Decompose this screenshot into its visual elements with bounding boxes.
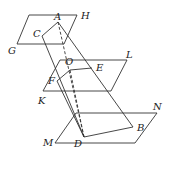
point-labels: AHCGLOEFKNBMD — [8, 10, 163, 149]
segment-AB — [58, 22, 133, 127]
label-c: C — [33, 28, 41, 39]
label-e: E — [95, 62, 104, 73]
segments — [42, 22, 133, 137]
segment-OE — [70, 68, 92, 70]
segment-FO — [57, 70, 70, 81]
segment-CD — [42, 36, 84, 137]
label-f: F — [47, 75, 56, 86]
diagram-canvas: AHCGLOEFKNBMD — [0, 0, 172, 169]
label-m: M — [42, 137, 54, 148]
label-b: B — [136, 122, 144, 133]
label-o: O — [65, 56, 73, 67]
plane-kl — [43, 60, 127, 91]
label-a: A — [53, 11, 61, 22]
label-d: D — [73, 138, 82, 149]
plane-gh — [17, 15, 77, 44]
label-n: N — [152, 101, 163, 112]
label-l: L — [125, 49, 133, 60]
label-g: G — [8, 45, 16, 56]
segment-DB — [84, 127, 133, 137]
geometry-diagram: AHCGLOEFKNBMD — [0, 0, 172, 169]
label-k: K — [37, 95, 46, 106]
label-h: H — [80, 10, 90, 21]
segment-FD — [57, 81, 84, 137]
segment-CA — [42, 22, 58, 36]
